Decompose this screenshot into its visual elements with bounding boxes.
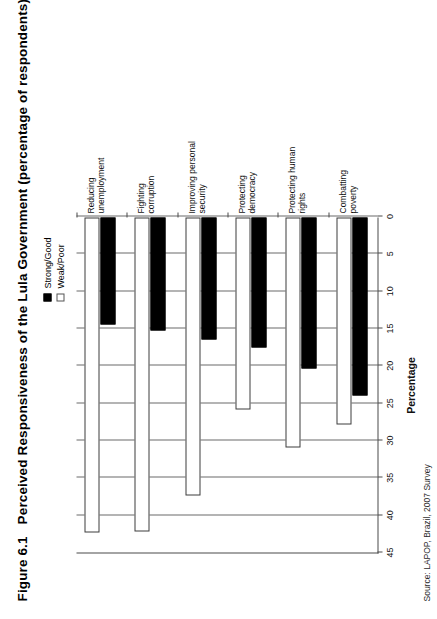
axis-tick xyxy=(377,215,382,216)
category-separator-tick xyxy=(328,212,329,217)
source-note: Source: LAPOP, Brazil, 2007 Survey xyxy=(421,464,431,601)
bar-weak-poor xyxy=(336,217,351,424)
axis-tick-label: 40 xyxy=(384,510,394,520)
category-separator-tick xyxy=(277,212,278,217)
bar-group xyxy=(328,217,378,552)
category-separator-tick xyxy=(177,212,178,217)
axis-tick-label: 5 xyxy=(384,251,394,256)
chart-legend: Strong/Good Weak/Poor xyxy=(42,237,65,301)
bar-weak-poor xyxy=(84,217,99,532)
figure-caption: Figure 6.1Perceived Responsiveness of th… xyxy=(14,0,29,601)
bar-group xyxy=(126,217,176,552)
category-separator-tick xyxy=(76,212,77,217)
figure-page: Figure 6.1Perceived Responsiveness of th… xyxy=(0,0,437,619)
category-label-line: Improving personal xyxy=(186,141,196,213)
bar-strong-good xyxy=(251,217,266,347)
axis-tick-label: 20 xyxy=(384,360,394,370)
bar-group xyxy=(277,217,327,552)
category-label-line: Fighting xyxy=(135,183,145,213)
axis-tick-label: 45 xyxy=(384,547,394,557)
plot-area: 454035302520151050 xyxy=(76,217,378,553)
category-label: Improving personalsecurity xyxy=(186,93,206,213)
value-axis-title: Percentage xyxy=(404,217,416,553)
page-title: Perceived Responsiveness of the Lula Gov… xyxy=(14,0,29,524)
bar-group xyxy=(76,217,126,552)
axis-tick-label: 35 xyxy=(384,472,394,482)
bar-group xyxy=(177,217,227,552)
category-label-line: rights xyxy=(296,192,306,213)
bar-strong-good xyxy=(150,217,165,330)
category-label: Combattingpoverty xyxy=(337,93,357,213)
legend-swatch-solid-icon xyxy=(43,293,51,301)
legend-label-strong-good: Strong/Good xyxy=(42,237,52,288)
bar-weak-poor xyxy=(134,217,149,531)
axis-tick-label: 0 xyxy=(384,213,394,218)
legend-item-weak-poor: Weak/Poor xyxy=(55,237,65,301)
category-label-line: Combatting xyxy=(337,170,347,213)
gridline xyxy=(76,215,377,216)
legend-item-strong-good: Strong/Good xyxy=(42,237,52,301)
category-label-line: security xyxy=(196,184,206,213)
category-label: Fightingcorruption xyxy=(135,93,155,213)
category-separator-tick xyxy=(126,212,127,217)
category-label-line: corruption xyxy=(145,175,155,213)
figure-number: Figure 6.1 xyxy=(14,536,29,601)
bar-group xyxy=(227,217,277,552)
category-label-line: Protecting xyxy=(236,175,246,213)
bar-strong-good xyxy=(352,217,367,395)
axis-tick-label: 15 xyxy=(384,323,394,333)
legend-label-weak-poor: Weak/Poor xyxy=(55,244,65,288)
category-separator-tick xyxy=(227,212,228,217)
axis-tick-label: 10 xyxy=(384,286,394,296)
category-label-line: democracy xyxy=(246,171,256,213)
bar-strong-good xyxy=(100,217,115,324)
axis-tick-label: 25 xyxy=(384,398,394,408)
bar-strong-good xyxy=(301,217,316,368)
category-label-line: unemployment xyxy=(95,157,105,213)
category-label: Protecting humanrights xyxy=(286,93,306,213)
bar-weak-poor xyxy=(185,217,200,495)
category-label: Protectingdemocracy xyxy=(236,93,256,213)
category-label-line: Protecting human xyxy=(286,146,296,213)
bar-strong-good xyxy=(201,217,216,339)
bar-weak-poor xyxy=(285,217,300,447)
category-label: Reducingunemployment xyxy=(85,93,105,213)
category-label-line: Reducing xyxy=(85,177,95,213)
axis-tick-label: 30 xyxy=(384,435,394,445)
category-label-line: poverty xyxy=(347,185,357,213)
legend-swatch-hollow-icon xyxy=(56,293,64,301)
bar-weak-poor xyxy=(235,217,250,409)
